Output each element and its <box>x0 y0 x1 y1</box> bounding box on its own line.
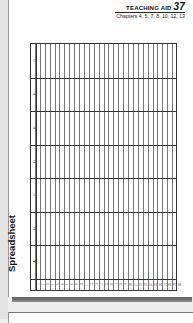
row-lines <box>31 44 176 290</box>
column-divider <box>31 212 176 213</box>
column-header-f: F <box>32 91 37 97</box>
column-divider <box>31 145 176 146</box>
row-number: 4 <box>52 279 57 290</box>
column-divider <box>31 78 176 79</box>
column-letter-strip-divider <box>36 44 37 290</box>
chapters-reference: Chapters 4, 5, 7, 8, 10, 12, 13 <box>116 13 185 19</box>
row-number: 30 <box>179 279 184 290</box>
page-bottom-bar <box>12 297 192 302</box>
column-header-a: A <box>32 259 37 265</box>
column-divider <box>31 245 176 246</box>
spreadsheet-title: Spreadsheet <box>6 215 17 272</box>
row-number: 26 <box>160 279 165 290</box>
column-header-c: C <box>32 192 37 198</box>
teaching-aid-number: 37 <box>173 1 185 12</box>
teaching-aid-title: TEACHING AID 37 <box>126 1 185 12</box>
column-header-e: E <box>32 124 37 130</box>
column-header-g: G <box>32 57 37 63</box>
column-divider <box>31 279 176 280</box>
column-divider <box>31 178 176 179</box>
row-number-strip: 1234567891011121314151617181920212223242… <box>37 279 176 290</box>
row-number: 16 <box>111 279 116 290</box>
column-header-b: B <box>32 225 37 231</box>
row-number: 15 <box>106 279 111 290</box>
next-page-frame <box>8 312 193 323</box>
row-number: 5 <box>57 279 62 290</box>
teaching-aid-label: TEACHING AID <box>126 5 172 11</box>
spreadsheet-grid: 1234567891011121314151617181920212223242… <box>30 43 177 291</box>
column-header-d: D <box>32 158 37 164</box>
row-number: 25 <box>155 279 160 290</box>
column-divider <box>31 111 176 112</box>
